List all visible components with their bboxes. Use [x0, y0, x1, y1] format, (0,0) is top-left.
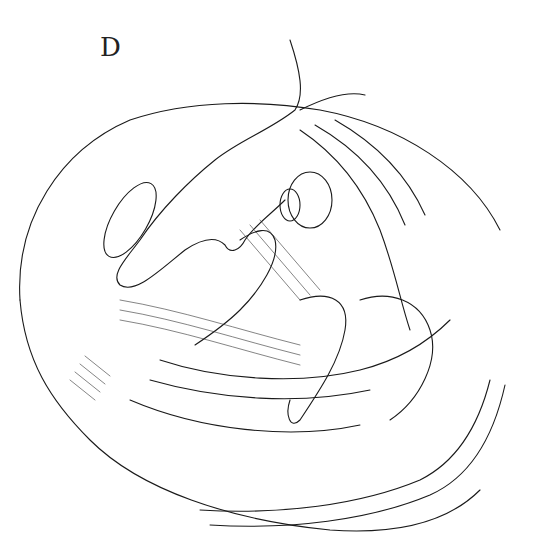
spine: [200, 380, 490, 511]
anatomical-illustration: [0, 0, 537, 550]
hand: [117, 40, 301, 287]
